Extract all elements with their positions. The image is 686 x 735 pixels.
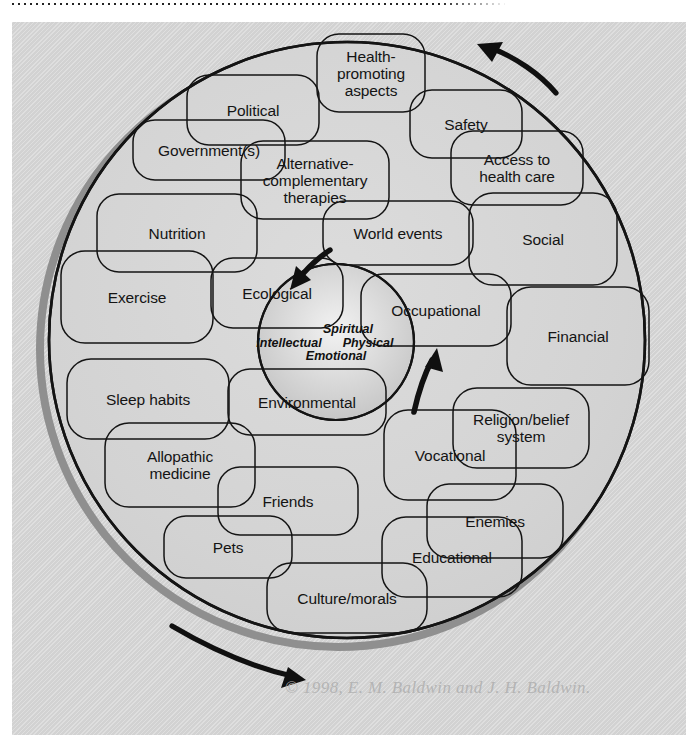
node-label-pets: Pets bbox=[213, 539, 244, 556]
node-label-occupational: Occupational bbox=[391, 302, 480, 319]
node-label-health-promoting-aspects: Health- promoting aspects bbox=[337, 48, 405, 99]
node-label-access-to-health-care: Access to health care bbox=[479, 151, 555, 185]
copyright-notice: © 1998, E. M. Baldwin and J. H. Baldwin. bbox=[285, 678, 591, 698]
node-label-world-events: World events bbox=[354, 225, 443, 242]
node-label-ecological: Ecological bbox=[242, 285, 312, 302]
node-label-educational: Educational bbox=[412, 549, 492, 566]
node-label-vocational: Vocational bbox=[415, 447, 486, 464]
node-label-safety: Safety bbox=[444, 116, 487, 133]
core-label-emotional: Emotional bbox=[306, 350, 366, 363]
node-label-financial: Financial bbox=[547, 328, 608, 345]
wellness-wheel-figure: Health- promoting aspects Political Safe… bbox=[0, 0, 686, 735]
node-label-governments: Government(s) bbox=[158, 142, 260, 159]
node-label-social: Social bbox=[522, 231, 564, 248]
node-label-enemies: Enemies bbox=[465, 513, 525, 530]
node-label-political: Political bbox=[227, 102, 280, 119]
node-label-culture-morals: Culture/morals bbox=[297, 590, 396, 607]
node-label-religion-belief-system: Religion/belief system bbox=[473, 411, 569, 445]
node-label-nutrition: Nutrition bbox=[149, 225, 206, 242]
node-label-allopathic-medicine: Allopathic medicine bbox=[147, 448, 213, 482]
core-label-spiritual: Spiritual bbox=[323, 323, 373, 336]
node-label-friends: Friends bbox=[263, 493, 314, 510]
node-label-alternative-complementary-therapies: Alternative- complementary therapies bbox=[263, 155, 368, 206]
node-label-environmental: Environmental bbox=[258, 394, 356, 411]
node-label-exercise: Exercise bbox=[108, 289, 167, 306]
diagram-canvas bbox=[0, 0, 686, 735]
node-label-sleep-habits: Sleep habits bbox=[106, 391, 190, 408]
